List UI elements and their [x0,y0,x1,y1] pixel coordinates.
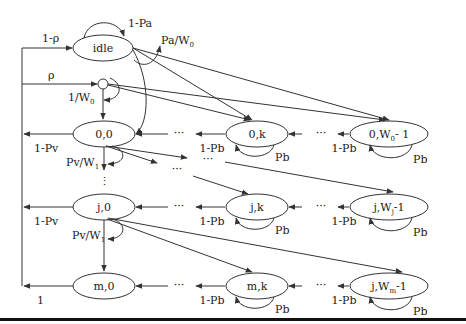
bottom-rule [0,318,466,321]
vdots: ⋮ [99,175,110,188]
label-1-pb: 1-Pb [199,294,224,307]
node-idle: idle [73,35,133,61]
label-1-pb: 1-Pb [199,215,224,228]
node-0-k-label: 0,k [248,128,265,141]
intermediate-to-0k [108,85,250,120]
edge-00-diag2 [106,146,187,158]
node-j-k: j,k [226,194,288,220]
node-j-wm-1: j,Wm-1 [350,273,428,299]
label-rho: ρ [48,69,54,82]
node-0-k: 0,k [226,121,288,147]
label-1-w0: 1/W0 [68,91,94,106]
label-1: 1 [37,294,44,307]
node-m-0-label: m,0 [94,280,115,293]
label-pv-w1-row0: Pv/W1 [66,156,99,171]
edge-j0-to-mw [108,218,402,272]
label-1-pb: 1-Pb [331,215,356,228]
edge-j0-to-mk [107,219,252,272]
idle-to-0w [133,48,389,120]
edge-to-jw [225,162,393,192]
label-1-pv-row0: 1-Pv [34,142,59,155]
idle-to-0k [133,48,252,120]
label-pa-w0: Pa/W0 [161,34,194,49]
node-j-wj-1: j,Wj-1 [350,194,428,220]
intermediate-to-0w [108,84,385,120]
node-0-w0-1: 0,W0- 1 [350,121,428,147]
label-1-rho: 1-ρ [42,32,59,45]
label-pb: Pb [275,151,289,164]
node-0-w0-1-label: 0,W0- 1 [369,128,410,143]
label-pb: Pb [275,303,289,316]
label-pb: Pb [413,226,427,239]
label-1-pv-rowj: 1-Pv [34,215,59,228]
label-pb: Pb [413,305,427,318]
label-pb: Pb [275,224,289,237]
edge-00-diag1 [106,146,157,163]
dots: ··· [174,279,185,292]
label-1-pb: 1-Pb [331,294,356,307]
node-idle-label: idle [93,42,114,55]
node-j-0: j,0 [73,194,135,220]
node-m-k: m,k [226,273,288,299]
markov-chain-diagram: idle 1-Pa Pa/W0 1-ρ ρ 1/W0 0,0 0,k 0,W0-… [0,0,466,324]
dots: ··· [174,200,185,213]
node-0-0-label: 0,0 [95,128,113,141]
dots: ··· [172,163,183,176]
node-m-k-label: m,k [247,280,268,293]
dots: ··· [316,200,327,213]
label-1-pa: 1-Pa [128,17,153,30]
dots: ··· [203,153,214,166]
node-j-k-label: j,k [248,201,264,214]
label-1-pb: 1-Pb [331,142,356,155]
node-0-0: 0,0 [73,121,135,147]
node-j-0-label: j,0 [95,201,111,214]
node-m-0: m,0 [73,273,135,299]
node-j-wm-1-label: j,Wm-1 [369,280,407,295]
dots: ··· [174,127,185,140]
label-pv-w1-rowj: Pv/W1 [72,229,105,244]
dots: ··· [316,127,327,140]
node-intermediate [98,79,108,89]
node-j-wj-1-label: j,Wj-1 [371,201,404,216]
dots: ··· [316,279,327,292]
edge-to-jk [193,176,248,194]
label-pb: Pb [413,153,427,166]
